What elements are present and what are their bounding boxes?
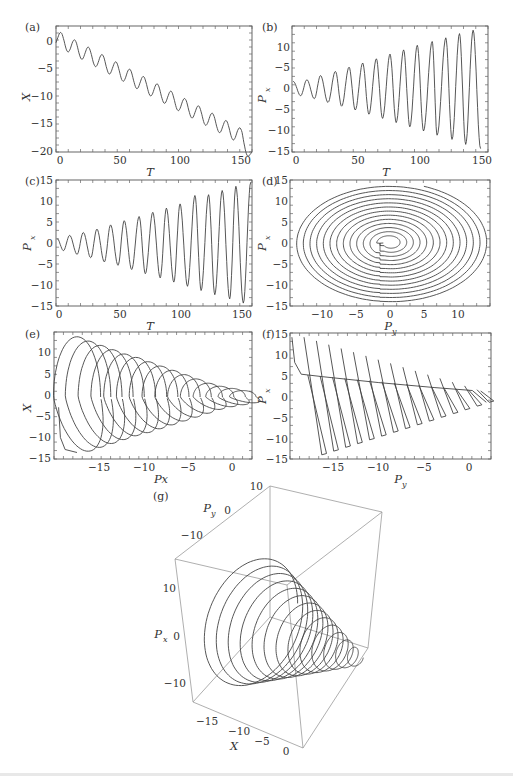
panel-f-xtick: −15 <box>322 461 344 473</box>
panel-c-ytick: 10 <box>40 195 53 207</box>
panel-g-ztick: 0 <box>173 630 180 642</box>
panel-d-ytick: 5 <box>281 216 288 228</box>
panel-b-ytick: −15 <box>268 145 290 157</box>
panel-f-ytick: −10 <box>266 433 288 445</box>
panel-g-xlabel: X <box>229 739 239 753</box>
panel-b-xtick: 50 <box>351 154 364 166</box>
panel-c-ytick: −5 <box>38 258 53 270</box>
svg-text:x: x <box>263 388 272 393</box>
panel-f-ytick: −5 <box>273 412 288 424</box>
panel-b-xtick: 0 <box>293 154 300 166</box>
panel-e-ytick: 0 <box>44 389 51 401</box>
panel-d: (d) −10 −5 0 5 10 15 10 5 0 −5 −10 −15 P… <box>255 174 490 336</box>
panel-c-xlabel: T <box>146 319 155 333</box>
panel-g-box <box>175 486 382 748</box>
svg-text:P: P <box>383 319 392 333</box>
panel-a-tag: (a) <box>25 21 40 34</box>
panel-f-ytick: −15 <box>266 453 288 465</box>
panel-b-xtick: 100 <box>410 154 430 166</box>
panel-a-ylabel: X <box>19 92 33 102</box>
panel-f: (f) −15 −10 −5 0 15 10 5 0 −5 −10 −15 P … <box>255 328 494 489</box>
panel-g-ylabel: P y <box>202 501 216 518</box>
panel-d-ytick: −5 <box>273 258 288 270</box>
panel-c-curve <box>57 182 251 303</box>
panel-f-ytick: 5 <box>281 370 288 382</box>
panel-c-xtick: 150 <box>232 308 252 320</box>
panel-d-xtick: 10 <box>451 308 464 320</box>
svg-text:P: P <box>255 95 269 104</box>
panel-f-xtick: −5 <box>416 461 431 473</box>
panel-e-xlabel: Px <box>153 472 169 486</box>
panel-b-ytick: −10 <box>268 124 290 136</box>
panel-e-ytick: 5 <box>44 368 51 380</box>
panel-e-ytick: −10 <box>29 431 51 443</box>
svg-text:y: y <box>401 480 407 489</box>
panel-c: (c) 0 50 100 150 15 10 5 0 −5 −10 −15 T … <box>20 174 252 333</box>
panel-d-xlabel: P y <box>383 319 397 336</box>
panel-c-ticks <box>56 180 252 306</box>
panel-a-xtick: 50 <box>113 154 126 166</box>
svg-text:P: P <box>255 396 269 405</box>
panel-f-curve <box>292 337 494 455</box>
panel-c-xtick: 100 <box>171 308 191 320</box>
panel-d-ytick: −10 <box>266 279 288 291</box>
panel-c-tag: (c) <box>25 175 40 188</box>
panel-b-xtick: 150 <box>472 154 492 166</box>
panel-b-ytick: 10 <box>277 41 290 53</box>
panel-g-zlabel: P x <box>153 627 168 644</box>
panel-g-ytick: 0 <box>224 504 231 516</box>
panel-g-ztick: −10 <box>164 677 186 689</box>
svg-text:x: x <box>28 235 37 240</box>
panel-e-xtick: −15 <box>88 461 110 473</box>
panel-g-xtick: 0 <box>283 745 290 757</box>
panel-b-frame <box>292 26 488 152</box>
panel-g-xtick: −5 <box>254 735 269 747</box>
panel-d-xtick: 5 <box>421 308 428 320</box>
panel-g-tag: (g) <box>153 490 169 503</box>
panel-g-curve <box>204 559 363 686</box>
panel-d-ytick: 10 <box>275 195 288 207</box>
panel-d-curve <box>297 186 487 301</box>
panel-c-frame <box>56 180 252 306</box>
panel-d-ytick: −15 <box>266 300 288 312</box>
panel-f-tag: (f) <box>262 328 275 341</box>
svg-text:P: P <box>393 472 402 486</box>
panel-d-xtick: −5 <box>348 308 363 320</box>
panel-c-xtick: 50 <box>113 308 126 320</box>
panel-c-ytick: 15 <box>40 174 53 186</box>
panel-e-xtick: 0 <box>229 461 236 473</box>
panel-f-xtick: −10 <box>367 461 389 473</box>
panel-e-xtick: −10 <box>133 461 155 473</box>
panel-f-ytick: 10 <box>275 349 288 361</box>
panel-a-ytick: −5 <box>38 62 53 74</box>
panel-a-ytick: −15 <box>31 117 53 129</box>
panel-g: (g) 10 0 −10 P y 10 0 −10 P <box>153 480 382 757</box>
panel-a-ytick: −10 <box>31 90 53 102</box>
panel-f-xtick: 0 <box>466 461 473 473</box>
panel-a-curve <box>56 33 252 157</box>
svg-text:y: y <box>210 509 216 518</box>
svg-text:x: x <box>263 87 272 92</box>
panel-c-xtick: 0 <box>56 308 63 320</box>
panel-b-ytick: −5 <box>275 103 290 115</box>
panel-a: (a) 0 50 100 150 0 −5 −10 −15 −20 T X <box>19 21 252 179</box>
panel-e-curve <box>54 337 261 453</box>
panel-c-ytick: 0 <box>46 237 53 249</box>
svg-text:y: y <box>391 327 397 336</box>
svg-text:P: P <box>255 243 269 252</box>
panel-a-ytick: 0 <box>46 35 53 47</box>
panel-g-ytick: 10 <box>250 480 263 492</box>
svg-text:P: P <box>20 243 34 252</box>
panel-b-ylabel: P x <box>255 87 272 104</box>
panel-b-tag: (b) <box>262 21 278 34</box>
panel-f-xlabel: P y <box>393 472 407 489</box>
panel-e: (e) −15 −10 −5 0 10 5 0 −5 −10 −15 Px X <box>20 328 260 486</box>
panel-g-xtick: −15 <box>196 715 218 727</box>
panel-e-ytick: −5 <box>36 410 51 422</box>
panel-e-ylabel: X <box>20 403 34 413</box>
panel-a-xlabel: T <box>146 165 155 179</box>
svg-text:x: x <box>263 235 272 240</box>
panel-d-xtick: −10 <box>311 308 333 320</box>
panel-f-ylabel: P x <box>255 388 272 405</box>
panel-a-xtick: 0 <box>57 154 64 166</box>
